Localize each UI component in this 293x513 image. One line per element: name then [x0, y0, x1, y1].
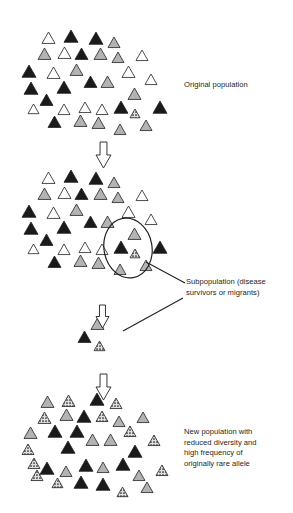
caption-subpopulation: Subpopulation (disease survivors or migr… — [186, 277, 266, 298]
triangle-speckled — [156, 465, 168, 476]
triangle-white — [136, 190, 148, 201]
triangle-gray — [97, 462, 109, 473]
triangle-white — [96, 244, 108, 255]
triangle-gray — [70, 64, 83, 75]
triangle-black — [89, 172, 103, 184]
triangle-black — [70, 425, 84, 437]
triangle-black — [64, 170, 78, 182]
triangle-gray — [94, 188, 107, 199]
triangle-gray — [112, 192, 124, 203]
triangle-black — [64, 30, 78, 42]
triangle-white — [96, 104, 108, 115]
triangle-black — [40, 94, 53, 105]
triangle-gray — [128, 228, 141, 239]
triangle-gray — [38, 188, 51, 199]
triangle-gray — [60, 466, 72, 477]
triangle-speckled — [124, 426, 136, 437]
triangle-gray — [92, 117, 105, 128]
triangle-white — [145, 74, 157, 85]
triangle-white — [58, 47, 71, 58]
triangle-gray — [41, 396, 54, 407]
triangle-speckled — [52, 478, 63, 488]
triangle-black — [153, 101, 167, 113]
triangle-black — [61, 441, 75, 453]
triangle-speckled — [117, 487, 128, 497]
triangle-white — [58, 187, 71, 198]
triangle-gray — [137, 412, 149, 423]
triangle-white — [58, 104, 70, 115]
triangle-gray — [74, 255, 87, 266]
triangle-white — [47, 67, 60, 78]
leader-line-subpop-cluster — [123, 298, 183, 331]
triangle-gray — [94, 48, 107, 59]
triangle-white — [42, 172, 55, 183]
triangle-speckled — [62, 395, 75, 406]
triangle-gray — [38, 48, 51, 59]
triangle-gray — [140, 120, 152, 131]
triangle-speckled — [96, 411, 108, 422]
triangle-black — [84, 216, 97, 227]
triangle-black — [24, 222, 38, 234]
triangle-gray — [108, 177, 120, 188]
triangle-gray — [74, 115, 87, 126]
triangle-black — [114, 101, 128, 113]
triangle-black — [116, 458, 130, 470]
triangle-speckled — [94, 341, 105, 351]
triangle-black — [96, 478, 110, 490]
triangle-gray — [141, 482, 153, 493]
arrow-original-to-middle — [96, 142, 111, 168]
triangle-gray — [113, 416, 125, 427]
caption-original-population: Original population — [184, 80, 248, 91]
triangle-white — [122, 66, 135, 77]
triangle-speckled — [22, 444, 34, 455]
triangle-black — [75, 48, 88, 59]
triangle-black — [48, 256, 61, 267]
triangle-white — [28, 244, 39, 254]
triangle-black — [24, 82, 38, 94]
triangle-black — [48, 425, 62, 437]
triangle-black — [40, 234, 53, 245]
triangle-black — [57, 221, 71, 233]
figure-canvas: Original population Subpopulation (disea… — [0, 0, 293, 513]
triangle-gray — [86, 434, 99, 445]
triangle-black — [22, 65, 36, 77]
triangle-white — [79, 242, 91, 253]
triangle-black — [78, 331, 91, 342]
triangle-black — [114, 241, 128, 253]
annotation-layer — [96, 142, 185, 400]
triangle-speckled — [38, 412, 51, 423]
triangle-gray — [70, 204, 83, 215]
triangle-black — [89, 32, 103, 44]
triangle-layer — [22, 30, 168, 497]
triangle-white — [42, 32, 55, 43]
triangle-gray — [112, 52, 124, 63]
triangle-white — [136, 50, 148, 61]
triangle-black — [84, 76, 97, 87]
triangle-black — [79, 459, 93, 471]
triangle-gray — [92, 257, 105, 268]
triangle-black — [153, 241, 167, 253]
triangle-gray — [104, 434, 117, 445]
triangle-white — [47, 207, 60, 218]
triangle-white — [58, 244, 70, 255]
triangle-speckled — [110, 398, 122, 409]
leader-line-ellipse — [146, 262, 185, 283]
original-population — [22, 30, 167, 135]
triangle-black — [40, 462, 54, 474]
triangle-white — [79, 102, 91, 113]
triangle-speckled — [130, 109, 140, 118]
triangle-white — [145, 214, 157, 225]
triangle-white — [122, 206, 135, 217]
triangle-gray — [128, 88, 141, 99]
new-population — [22, 393, 168, 497]
triangle-black — [75, 188, 88, 199]
triangle-gray — [133, 470, 145, 481]
triangle-black — [48, 116, 61, 127]
triangle-white — [28, 104, 39, 114]
middle-population — [22, 170, 167, 275]
caption-new-population: New population with reduced diversity an… — [184, 427, 257, 469]
triangle-black — [74, 476, 88, 488]
triangle-gray — [60, 409, 73, 420]
triangle-black — [77, 410, 91, 422]
triangle-black — [128, 445, 142, 457]
